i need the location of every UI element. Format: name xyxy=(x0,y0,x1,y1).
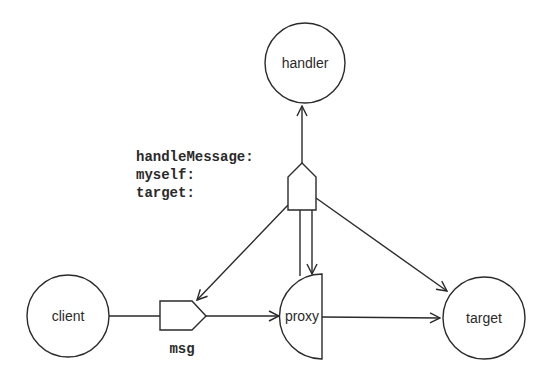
edge-message-to-msg xyxy=(197,205,288,300)
node-handler: handler xyxy=(265,23,345,103)
selector-line-1: handleMessage: xyxy=(136,149,254,165)
node-target: target xyxy=(443,277,525,359)
client-label: client xyxy=(52,308,85,324)
selector-line-2: myself: xyxy=(136,167,195,183)
message-pentagon-up-icon xyxy=(288,163,316,210)
message-handle-message: handleMessage: myself: target: xyxy=(136,149,316,210)
message-msg: msg xyxy=(160,301,206,357)
selector-line-3: target: xyxy=(136,185,195,201)
edges xyxy=(109,106,447,318)
proxy-label: proxy xyxy=(285,308,319,324)
node-proxy: proxy xyxy=(280,274,322,359)
edge-proxy-to-target xyxy=(322,317,440,318)
handler-label: handler xyxy=(282,55,329,71)
message-pentagon-right-icon xyxy=(160,301,206,330)
node-client: client xyxy=(27,275,109,357)
msg-label: msg xyxy=(169,341,194,357)
edge-message-to-target xyxy=(316,198,447,291)
target-label: target xyxy=(466,310,502,326)
message-diagram: handler handleMessage: myself: target: c… xyxy=(0,0,549,382)
